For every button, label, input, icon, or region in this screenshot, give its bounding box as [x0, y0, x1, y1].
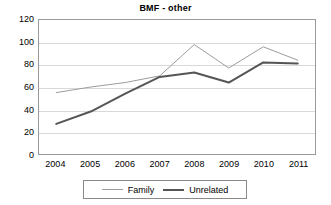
series-layer	[39, 20, 315, 154]
legend-item-family[interactable]: Family	[102, 185, 155, 195]
legend-item-unrelated[interactable]: Unrelated	[163, 185, 228, 195]
legend-item-label: Family	[128, 185, 155, 195]
x-axis: 20042005200620072008200920102011	[38, 159, 316, 173]
series-line-family	[56, 45, 298, 93]
legend-item-label: Unrelated	[189, 185, 228, 195]
y-axis-tick-label: 40	[0, 105, 34, 114]
line-chart: BMF - other 020406080100120 200420052006…	[0, 0, 331, 205]
legend-line-swatch-icon	[163, 189, 184, 191]
y-axis-tick-label: 120	[0, 15, 34, 24]
y-axis-tick-label: 20	[0, 128, 34, 137]
y-axis-tick-label: 0	[0, 151, 34, 160]
legend-line-swatch-icon	[102, 189, 123, 190]
y-axis-tick-label: 100	[0, 37, 34, 46]
series-line-unrelated	[56, 62, 298, 123]
y-axis: 020406080100120	[0, 19, 34, 155]
plot-area	[38, 19, 316, 155]
chart-legend: FamilyUnrelated	[83, 180, 247, 199]
chart-title: BMF - other	[0, 3, 331, 13]
x-axis-tick-label: 2011	[279, 159, 319, 169]
y-axis-tick-label: 80	[0, 60, 34, 69]
y-axis-tick-label: 60	[0, 83, 34, 92]
